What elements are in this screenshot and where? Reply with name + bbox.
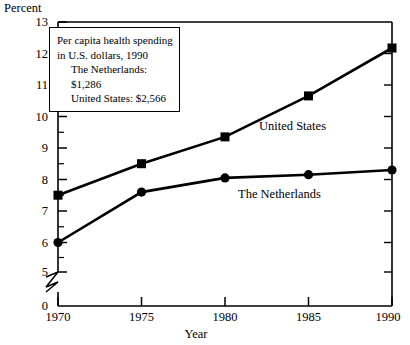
y-tick-label-7: 7 <box>22 205 48 218</box>
x-tick-label-1970: 1970 <box>46 311 71 324</box>
y-tick-label-8: 8 <box>22 173 48 186</box>
x-axis-label: Year <box>184 328 207 341</box>
health-spending-line-chart: Percent 13 12 11 10 9 8 7 6 5 0 1970 197… <box>0 0 410 345</box>
annotation-line-4: United States: $2,566 <box>57 91 173 106</box>
y-tick-label-5: 5 <box>22 266 48 279</box>
annotation-line-2: in U.S. dollars, 1990 <box>57 48 173 63</box>
x-tick-label-1990: 1990 <box>376 311 401 324</box>
x-tick-label-1980: 1980 <box>213 311 238 324</box>
annotation-line-3: The Netherlands: $1,286 <box>57 62 173 91</box>
x-tick-label-1985: 1985 <box>296 311 321 324</box>
annotation-line-1: Per capita health spending <box>57 33 173 48</box>
y-tick-label-11: 11 <box>22 79 48 92</box>
annotation-box: Per capita health spending in U.S. dolla… <box>49 27 180 112</box>
y-tick-label-0: 0 <box>22 300 48 313</box>
y-axis-label: Percent <box>4 2 41 15</box>
y-right-ticks <box>384 54 392 273</box>
y-tick-label-10: 10 <box>22 110 48 123</box>
y-tick-label-6: 6 <box>22 236 48 249</box>
y-tick-label-12: 12 <box>22 47 48 60</box>
y-tick-label-9: 9 <box>22 142 48 155</box>
x-tick-label-1975: 1975 <box>129 311 154 324</box>
series-label-the-netherlands: The Netherlands <box>238 188 321 201</box>
y-tick-label-13: 13 <box>22 16 48 29</box>
x-major-ticks <box>58 297 392 306</box>
series-label-united-states: United States <box>259 120 326 133</box>
